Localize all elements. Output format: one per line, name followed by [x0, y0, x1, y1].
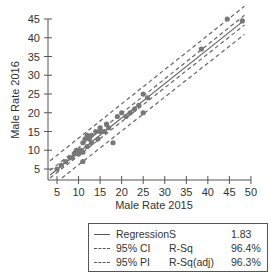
data-point: [123, 114, 128, 119]
data-point: [136, 103, 141, 108]
y-tick-label: 45: [28, 13, 40, 25]
y-tick-label: 30: [28, 69, 40, 81]
pi-lower-line: [62, 34, 245, 178]
data-point: [85, 144, 90, 149]
data-point: [119, 110, 124, 115]
legend-row-pi: 95% PI R-Sq(adj) 96.3%: [89, 255, 267, 269]
data-point: [240, 18, 245, 23]
data-point: [89, 140, 94, 145]
scatter-plot: 51015202530354045 5101520253035404550 Ma…: [0, 0, 271, 222]
ci-upper-line: [50, 15, 244, 170]
x-axis-ticks: 5101520253035404550: [54, 176, 257, 198]
data-point: [80, 159, 85, 164]
legend: Regression S 1.83 95% CI R-Sq 96.4% 95% …: [88, 223, 268, 272]
data-point: [128, 110, 133, 115]
x-tick-label: 10: [72, 186, 84, 198]
legend-row-ci: 95% CI R-Sq 96.4%: [89, 241, 267, 255]
data-point: [225, 16, 230, 21]
legend-name: 95% CI: [116, 241, 150, 255]
legend-value: 96.3%: [231, 255, 261, 269]
y-tick-label: 5: [34, 163, 40, 175]
x-tick-label: 20: [116, 186, 128, 198]
y-tick-label: 15: [28, 126, 40, 138]
legend-row-regression: Regression S 1.83: [89, 227, 267, 241]
data-point: [95, 136, 100, 141]
y-tick-label: 25: [28, 88, 40, 100]
y-tick-label: 35: [28, 51, 40, 63]
data-point: [80, 150, 85, 155]
dashed-line-icon: [94, 262, 110, 263]
data-point: [102, 129, 107, 134]
x-tick-label: 25: [137, 186, 149, 198]
legend-stat: S: [169, 227, 176, 241]
x-axis-title: Male Rate 2015: [115, 199, 193, 211]
y-tick-label: 20: [28, 107, 40, 119]
data-point: [106, 125, 111, 130]
data-point: [59, 163, 64, 168]
data-point: [110, 140, 115, 145]
legend-value: 1.83: [231, 227, 251, 241]
data-point: [199, 46, 204, 51]
data-point: [89, 133, 94, 138]
x-tick-label: 30: [159, 186, 171, 198]
x-tick-label: 50: [245, 186, 257, 198]
pi-upper-line: [50, 6, 244, 161]
data-point: [141, 110, 146, 115]
data-point: [132, 106, 137, 111]
x-tick-label: 35: [180, 186, 192, 198]
data-point: [145, 95, 150, 100]
data-point: [141, 91, 146, 96]
legend-name: 95% PI: [116, 255, 150, 269]
y-tick-label: 40: [28, 32, 40, 44]
data-point: [115, 114, 120, 119]
dashed-line-icon: [94, 248, 110, 249]
y-axis-title: Male Rate 2016: [9, 61, 21, 139]
y-axis-ticks: 51015202530354045: [28, 13, 52, 175]
legend-value: 96.4%: [231, 241, 261, 255]
legend-stat: R-Sq: [169, 241, 193, 255]
solid-line-icon: [94, 234, 110, 235]
y-tick-label: 10: [28, 144, 40, 156]
legend-stat: R-Sq(adj): [169, 255, 214, 269]
x-tick-label: 40: [202, 186, 214, 198]
data-point: [54, 166, 59, 171]
x-tick-label: 15: [94, 186, 106, 198]
legend-name: Regression: [116, 227, 169, 241]
x-tick-label: 5: [54, 186, 60, 198]
data-point: [63, 159, 68, 164]
x-tick-label: 45: [223, 186, 235, 198]
